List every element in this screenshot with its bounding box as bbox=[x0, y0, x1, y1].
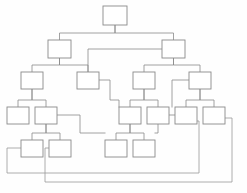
node-box[interactable] bbox=[21, 140, 43, 157]
node-box[interactable] bbox=[147, 107, 169, 124]
node-box[interactable] bbox=[162, 40, 185, 58]
node-box[interactable] bbox=[119, 107, 141, 124]
diagram-node[interactable] bbox=[105, 140, 127, 157]
diagram-node[interactable] bbox=[103, 6, 127, 25]
node-box[interactable] bbox=[35, 107, 57, 124]
diagram-node[interactable] bbox=[133, 72, 155, 89]
node-box[interactable] bbox=[49, 140, 71, 157]
connector-line bbox=[60, 58, 89, 72]
diagram-node[interactable] bbox=[147, 107, 169, 124]
node-box[interactable] bbox=[21, 72, 43, 89]
diagram-node[interactable] bbox=[35, 107, 57, 124]
diagram-node[interactable] bbox=[189, 72, 211, 89]
diagram-node[interactable] bbox=[162, 40, 185, 58]
diagram-node[interactable] bbox=[21, 72, 43, 89]
diagram-node[interactable] bbox=[7, 107, 29, 124]
connector-line bbox=[46, 124, 60, 140]
diagram-canvas bbox=[0, 0, 247, 193]
connector-line bbox=[200, 89, 214, 107]
node-box[interactable] bbox=[133, 140, 155, 157]
connector-line bbox=[32, 58, 60, 72]
diagram-node[interactable] bbox=[119, 107, 141, 124]
node-box[interactable] bbox=[203, 107, 225, 124]
node-box[interactable] bbox=[133, 72, 155, 89]
diagram-node[interactable] bbox=[133, 140, 155, 157]
diagram-node[interactable] bbox=[175, 107, 197, 124]
node-box[interactable] bbox=[7, 107, 29, 124]
connector-line bbox=[130, 124, 144, 140]
cross-connector-line bbox=[88, 49, 162, 72]
diagram-node[interactable] bbox=[203, 107, 225, 124]
cross-connector-line bbox=[172, 80, 189, 107]
node-box[interactable] bbox=[175, 107, 197, 124]
diagram-node[interactable] bbox=[48, 40, 71, 58]
diagram-node[interactable] bbox=[21, 140, 43, 157]
connector-line bbox=[144, 89, 158, 107]
connector-line bbox=[186, 89, 200, 107]
connector-line bbox=[60, 25, 116, 40]
diagram-node[interactable] bbox=[49, 140, 71, 157]
cross-connector-line bbox=[99, 80, 119, 107]
node-box[interactable] bbox=[103, 6, 127, 25]
node-box[interactable] bbox=[48, 40, 71, 58]
connector-line bbox=[32, 89, 46, 107]
node-box[interactable] bbox=[189, 72, 211, 89]
connector-line bbox=[174, 58, 201, 72]
cross-connector-line bbox=[57, 115, 105, 133]
connector-line bbox=[18, 89, 32, 107]
connector-line bbox=[116, 124, 130, 140]
node-box[interactable] bbox=[77, 72, 99, 89]
block-flow-diagram bbox=[0, 0, 247, 193]
connector-line bbox=[130, 89, 144, 107]
connector-line bbox=[115, 25, 174, 40]
diagram-node[interactable] bbox=[77, 72, 99, 89]
node-box[interactable] bbox=[105, 140, 127, 157]
connector-line bbox=[32, 124, 46, 140]
connector-line bbox=[144, 58, 174, 72]
